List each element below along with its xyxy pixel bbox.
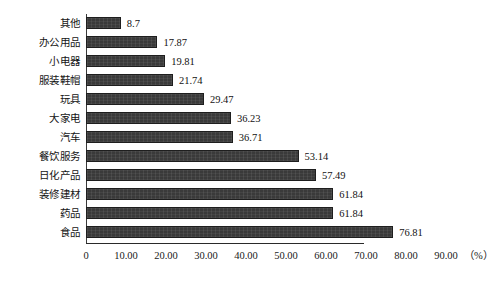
x-tick-label: 0 [83, 247, 88, 265]
bar-value-label: 61.84 [339, 204, 363, 223]
bar-value-label: 29.47 [210, 90, 234, 109]
bar [86, 93, 204, 105]
bar [86, 131, 233, 143]
x-tick-label: 20.00 [154, 247, 178, 265]
x-tick-label: 70.00 [354, 247, 378, 265]
bar-value-label: 36.71 [239, 128, 263, 147]
bar-value-label: 8.7 [127, 14, 140, 33]
category-label: 其他 [2, 14, 80, 33]
bar [86, 112, 231, 124]
category-label: 办公用品 [2, 33, 80, 52]
bar-row: 大家电36.23 [86, 109, 448, 128]
bar-row: 小电器19.81 [86, 52, 448, 71]
category-label: 装修建材 [2, 185, 80, 204]
bar-row: 办公用品17.87 [86, 33, 448, 52]
category-label: 餐饮服务 [2, 147, 80, 166]
bar-row: 装修建材61.84 [86, 185, 448, 204]
x-tick-label: 30.00 [194, 247, 218, 265]
category-label: 服装鞋帽 [2, 71, 80, 90]
bar-value-label: 36.23 [237, 109, 261, 128]
bar-value-label: 76.81 [399, 223, 423, 242]
bar [86, 36, 157, 48]
category-label: 汽车 [2, 128, 80, 147]
category-label: 大家电 [2, 109, 80, 128]
x-axis-unit-label: （%） [464, 247, 491, 265]
category-label: 食品 [2, 223, 80, 242]
bar [86, 169, 316, 181]
bar-row: 药品61.84 [86, 204, 448, 223]
bar-row: 汽车36.71 [86, 128, 448, 147]
category-label: 小电器 [2, 52, 80, 71]
x-tick-label: 80.00 [394, 247, 418, 265]
bar-value-label: 53.14 [305, 147, 329, 166]
bar-value-label: 17.87 [163, 33, 187, 52]
bar [86, 150, 299, 162]
x-axis-tick-labels: 010.0020.0030.0040.0050.0060.0070.0080.0… [0, 247, 483, 265]
bar [86, 188, 333, 200]
category-label: 药品 [2, 204, 80, 223]
x-tick-label: 60.00 [314, 247, 338, 265]
bar-row: 日化产品57.49 [86, 166, 448, 185]
bar-row: 食品76.81 [86, 223, 448, 242]
bar [86, 207, 333, 219]
bar [86, 17, 121, 29]
category-label: 日化产品 [2, 166, 80, 185]
bar [86, 55, 165, 67]
bar-row: 服装鞋帽21.74 [86, 71, 448, 90]
bar-value-label: 21.74 [179, 71, 203, 90]
bar-value-label: 57.49 [322, 166, 346, 185]
plot-area: 其他8.7办公用品17.87小电器19.81服装鞋帽21.74玩具29.47大家… [86, 14, 448, 244]
bar-row: 其他8.7 [86, 14, 448, 33]
bar-row: 餐饮服务53.14 [86, 147, 448, 166]
x-tick-label: 90.00 [434, 247, 458, 265]
x-tick-label: 40.00 [234, 247, 258, 265]
bar [86, 74, 173, 86]
category-label: 玩具 [2, 90, 80, 109]
bar-value-label: 19.81 [171, 52, 195, 71]
bar-value-label: 61.84 [339, 185, 363, 204]
x-tick-label: 10.00 [114, 247, 138, 265]
x-tick-label: 50.00 [274, 247, 298, 265]
bar [86, 226, 393, 238]
bar-row: 玩具29.47 [86, 90, 448, 109]
